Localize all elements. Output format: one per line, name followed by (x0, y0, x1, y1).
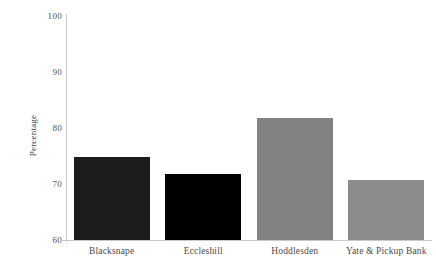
bar (348, 180, 424, 240)
x-axis-line (60, 240, 432, 241)
bar-chart: Percentage 10090807060 BlacksnapeEcclesh… (0, 0, 436, 271)
x-axis-category-label: Blacksnape (66, 244, 158, 258)
y-axis-tick-label: 70 (22, 179, 62, 189)
x-axis-category-label: Hoddlesden (249, 244, 341, 258)
y-axis-tick-labels: 10090807060 (18, 0, 62, 271)
y-axis-tick-label: 60 (22, 235, 62, 245)
bar (165, 174, 241, 240)
bars-layer (66, 16, 432, 240)
x-axis-category-label: Eccleshill (158, 244, 250, 258)
x-axis-category-label: Yate & Pickup Bank (341, 244, 433, 258)
x-axis-category-labels: BlacksnapeEccleshillHoddlesdenYate & Pic… (66, 244, 432, 264)
bar (257, 118, 333, 240)
bar (74, 157, 150, 240)
y-axis-tick-label: 90 (22, 67, 62, 77)
y-axis-tick-label: 80 (22, 123, 62, 133)
y-axis-tick-label: 100 (22, 11, 62, 21)
